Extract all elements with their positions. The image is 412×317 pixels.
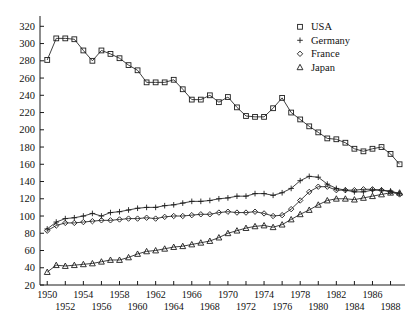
y-tick-label: 60: [25, 245, 36, 256]
series-usa: [45, 36, 402, 167]
y-tick-label: 140: [19, 176, 35, 187]
legend-label-usa: USA: [311, 21, 332, 32]
legend: USAGermanyFranceJapan: [297, 21, 351, 73]
y-tick-label: 180: [19, 142, 35, 153]
legend-label-france: France: [311, 48, 340, 59]
x-tick-label-bottom: 1980: [308, 301, 328, 312]
x-tick-label-top: 1954: [73, 289, 93, 300]
y-tick-label: 320: [19, 21, 35, 32]
x-tick-label-top: 1966: [182, 289, 202, 300]
x-tick-label-top: 1974: [254, 289, 274, 300]
data-point-square: [45, 58, 50, 63]
x-tick-label-top: 1986: [362, 289, 382, 300]
legend-label-germany: Germany: [311, 35, 351, 46]
y-tick-label: 160: [19, 159, 35, 170]
x-tick-label-bottom: 1988: [381, 301, 401, 312]
series-germany: [44, 174, 402, 232]
y-tick-label: 220: [19, 107, 35, 118]
data-point-diamond: [297, 51, 302, 56]
x-tick-label-top: 1950: [37, 289, 57, 300]
y-tick-label: 240: [19, 90, 35, 101]
data-point-square: [298, 24, 303, 29]
series-line: [47, 187, 399, 231]
y-tick-label: 260: [19, 73, 35, 84]
x-tick-label-bottom: 1968: [200, 301, 220, 312]
x-tick-label-bottom: 1972: [236, 301, 256, 312]
y-tick-label: 80: [25, 228, 36, 239]
y-tick-label: 100: [19, 211, 35, 222]
x-tick-label-bottom: 1960: [128, 301, 148, 312]
data-point-triangle: [297, 64, 303, 69]
y-tick-label: 280: [19, 55, 35, 66]
x-tick-label-bottom: 1956: [91, 301, 111, 312]
line-chart: 3203002802602402202001801601401201008060…: [0, 0, 412, 317]
x-tick-label-bottom: 1952: [55, 301, 75, 312]
x-tick-label-top: 1958: [110, 289, 130, 300]
y-tick-label: 20: [25, 280, 36, 291]
series-japan: [44, 190, 402, 275]
x-tick-label-bottom: 1976: [272, 301, 292, 312]
x-tick-label-bottom: 1964: [164, 301, 184, 312]
x-tick-label-bottom: 1984: [344, 301, 364, 312]
y-tick-label: 200: [19, 124, 35, 135]
series-line: [47, 193, 399, 272]
y-tick-label: 40: [25, 262, 36, 273]
x-tick-label-top: 1970: [218, 289, 238, 300]
x-tick-label-top: 1962: [146, 289, 166, 300]
x-tick-label-top: 1982: [326, 289, 346, 300]
x-tick-label-top: 1978: [290, 289, 310, 300]
series-france: [45, 184, 403, 233]
chart-container: 3203002802602402202001801601401201008060…: [0, 0, 412, 317]
legend-label-japan: Japan: [311, 62, 336, 73]
y-tick-label: 120: [19, 193, 35, 204]
y-tick-label: 300: [19, 38, 35, 49]
